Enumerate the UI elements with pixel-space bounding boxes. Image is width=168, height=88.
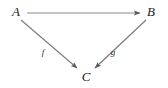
edge-b-to-c (95, 20, 146, 68)
edge-label-g: g (111, 48, 116, 57)
vertex-label-a: A (12, 5, 20, 18)
vertex-label-c: C (82, 70, 91, 83)
edge-label-f: f (42, 48, 45, 57)
vertex-label-b: B (147, 5, 155, 18)
edge-a-to-c (21, 20, 77, 68)
diagram-canvas: A B C f g (0, 0, 168, 88)
